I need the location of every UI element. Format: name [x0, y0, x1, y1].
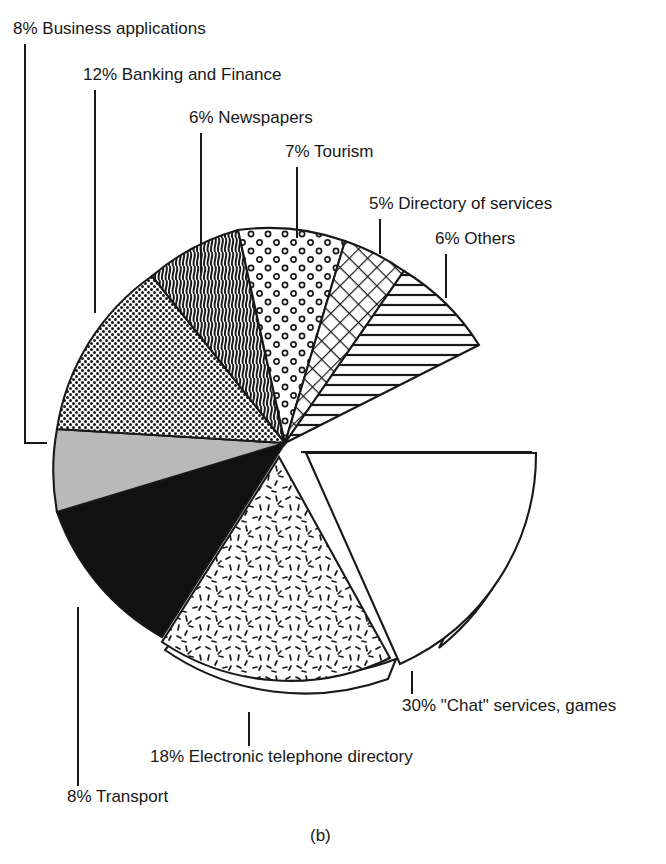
label-business-applications: 8% Business applications: [13, 19, 206, 39]
figure-caption: (b): [310, 826, 331, 846]
label-others: 6% Others: [435, 229, 515, 249]
pie-body: [53, 228, 536, 694]
label-transport: 8% Transport: [67, 787, 168, 807]
leader-business-applications: [25, 44, 47, 443]
label-newspapers: 6% Newspapers: [189, 108, 313, 128]
label-electronic-telephone-directory: 18% Electronic telephone directory: [150, 747, 413, 767]
label-banking-and-finance: 12% Banking and Finance: [83, 65, 281, 85]
label-tourism: 7% Tourism: [285, 142, 374, 162]
label-directory-of-services: 5% Directory of services: [369, 194, 552, 214]
pie-chart-figure: [0, 0, 666, 864]
label-chat-services: 30% "Chat" services, games: [402, 696, 616, 716]
